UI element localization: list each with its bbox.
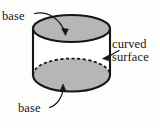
label-curved-surface-line1: curved <box>112 37 147 51</box>
label-curved-surface: curvedsurface <box>112 38 149 64</box>
label-curved-surface-line2: surface <box>112 51 149 64</box>
cylinder-diagram-canvas: base curvedsurface base <box>0 0 160 128</box>
cylinder-top-base <box>33 15 110 42</box>
label-base-bottom: base <box>18 102 41 115</box>
label-base-top: base <box>2 10 25 23</box>
